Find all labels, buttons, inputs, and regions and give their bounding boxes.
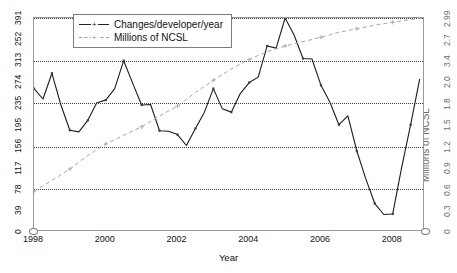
legend-item-ncsl: + Millions of NCSL [79,31,223,44]
series-marker-changes [176,133,178,135]
x-tick-label: 2000 [95,234,115,244]
series-marker-changes [338,124,340,126]
y-tick-label: 78 [14,184,23,193]
x-tick-label: 1998 [23,234,43,244]
series-marker-changes [51,72,53,74]
y-tick-label: 252 [14,32,23,46]
series-marker-changes [158,130,160,132]
y2-tick-label: 0.3 [443,206,452,218]
chart-container: 03978117156195235274313252391 00.30.60.9… [0,0,457,273]
x-tick-label: 2002 [166,234,186,244]
x-tick-label: 2006 [310,234,330,244]
series-marker-changes [87,119,89,121]
series-marker-ncsl [355,27,359,31]
series-marker-changes [410,124,412,126]
x-tick-label: 2008 [382,234,402,244]
series-marker-ncsl [283,44,287,48]
series-marker-changes [141,104,143,106]
y2-tick-label: 0.9 [443,163,452,175]
plot-area [33,17,424,231]
y-tick-label: 117 [14,161,23,175]
y-tick-label: 391 [14,11,23,25]
y-tick-label: 0 [14,229,23,234]
series-layer [34,18,423,230]
y2-tick-label: 1.5 [443,120,452,132]
series-marker-ncsl [247,57,251,61]
series-marker-changes [266,45,268,47]
x-tick-label: 2004 [238,234,258,244]
series-marker-changes [69,129,71,131]
series-marker-changes [230,111,232,113]
series-marker-changes [123,60,125,62]
legend-item-changes: + Changes/developer/year [79,18,223,31]
y2-tick-label: 0.6 [443,184,452,196]
series-marker-changes [34,88,35,90]
y2-tick-label: 3.4 [443,55,452,67]
series-marker-ncsl [104,142,108,146]
series-marker-ncsl [139,125,143,129]
y-tick-label: 195 [14,118,23,132]
y-tick-label: 274 [14,75,23,89]
x-axis-title: Year [0,252,457,263]
y-tick-label: 156 [14,139,23,153]
y2-tick-label: 2.99 [443,11,452,28]
y2-tick-label: 1.2 [443,141,452,153]
legend-key-ncsl-icon: + [79,32,109,43]
legend-key-changes-icon: + [79,19,109,30]
y2-tick-label: 0 [443,229,452,234]
chart-legend: + Changes/developer/year + Millions of N… [73,14,232,48]
plot-inner [34,18,423,230]
series-marker-changes [302,57,304,59]
legend-label-changes: Changes/developer/year [114,19,223,30]
axis-cap-bottom-right [421,228,430,235]
series-marker-changes [320,84,322,86]
series-marker-changes [284,18,286,19]
series-marker-changes [356,150,358,152]
y2-tick-label: 1.8 [443,98,452,110]
y2-tick-label: 2.0 [443,77,452,89]
series-marker-changes [212,88,214,90]
y-tick-label: 39 [14,205,23,214]
series-marker-changes [105,99,107,101]
y-tick-label: 235 [14,96,23,110]
y-tick-label: 313 [14,53,23,67]
legend-label-ncsl: Millions of NCSL [114,32,188,43]
y2-tick-label: 2.7 [443,34,452,46]
series-marker-ncsl [391,20,395,24]
series-marker-changes [194,127,196,129]
series-marker-changes [392,213,394,215]
series-marker-ncsl [319,35,323,39]
series-marker-changes [374,202,376,204]
axis-cap-bottom-left [29,228,38,235]
series-marker-changes [248,81,250,83]
